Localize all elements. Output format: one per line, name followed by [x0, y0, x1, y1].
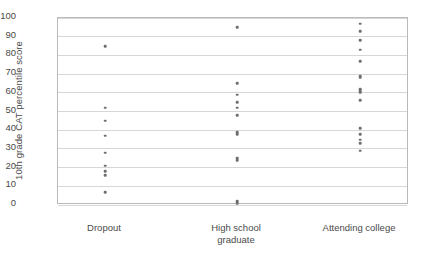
x-axis-category-label-line: Dropout [87, 222, 121, 234]
gridline [58, 36, 407, 37]
data-point [359, 22, 362, 25]
data-point [104, 45, 107, 48]
x-axis-category-label-line: High school [211, 222, 261, 234]
data-point [236, 26, 239, 29]
plot-area [57, 17, 408, 204]
data-point [236, 202, 239, 205]
data-point [359, 142, 362, 145]
gridline [58, 130, 407, 131]
data-point [104, 106, 107, 109]
data-point [359, 48, 362, 51]
data-point [236, 82, 239, 85]
data-point [104, 170, 107, 173]
x-axis-category-label: Attending college [323, 222, 396, 234]
data-point [236, 101, 239, 104]
data-point [236, 106, 239, 109]
data-point [236, 133, 239, 136]
gridline [58, 18, 407, 19]
x-axis-category-label-line: Attending college [323, 222, 396, 234]
data-point [104, 191, 107, 194]
data-point [359, 138, 362, 141]
data-point [359, 99, 362, 102]
data-point [236, 93, 239, 96]
data-point [104, 135, 107, 138]
data-point [104, 174, 107, 177]
gridline [58, 92, 407, 93]
data-point [359, 133, 362, 136]
data-point [359, 149, 362, 152]
gridline [58, 55, 407, 56]
data-point [236, 159, 239, 162]
gridline [58, 74, 407, 75]
gridline [58, 186, 407, 187]
data-point [104, 151, 107, 154]
gridline [58, 205, 407, 206]
scatter-chart: 10th grade CAT percentile score 10090807… [0, 0, 427, 256]
data-point [359, 77, 362, 80]
data-point [359, 39, 362, 42]
gridline [58, 167, 407, 168]
x-axis-category-label-line: graduate [211, 234, 261, 246]
data-point [359, 60, 362, 63]
x-axis-category-label: High schoolgraduate [211, 222, 261, 246]
data-point [359, 92, 362, 95]
data-point [359, 127, 362, 130]
gridline [58, 148, 407, 149]
data-point [236, 114, 239, 117]
data-point [104, 120, 107, 123]
data-point [359, 30, 362, 33]
data-point [104, 164, 107, 167]
x-axis-category-label: Dropout [87, 222, 121, 234]
gridline [58, 111, 407, 112]
